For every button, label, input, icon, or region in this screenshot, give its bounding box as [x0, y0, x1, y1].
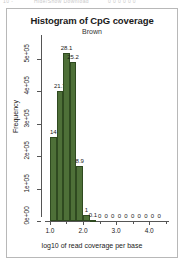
bar-value-label: 0 [151, 213, 154, 219]
toolbar-ghost-left: 10 - [3, 0, 13, 4]
bar-value-label: 0.1 [89, 212, 97, 218]
histogram-bar [70, 62, 77, 221]
bar-value-label: 0 [157, 213, 160, 219]
bar-value-label: 28.1 [61, 45, 73, 51]
cropped-toolbar-strip: 10 - Hide/Show Download 0 0 0 0 0 0 [0, 0, 187, 7]
histogram-panel: Histogram of CpG coverage Brown Frequenc… [6, 8, 178, 258]
histogram-bar [57, 91, 64, 221]
bar-value-label: 0 [111, 213, 114, 219]
bar-value-label: 25.2 [67, 54, 79, 60]
histogram-plot-area: Histogram of CpG coverage Brown Frequenc… [7, 9, 177, 257]
bar-value-label: 0 [98, 213, 101, 219]
toolbar-ghost-right: 0 0 0 0 0 0 [108, 0, 136, 4]
bar-value-label: 8.9 [76, 158, 84, 164]
bar-value-label: 0 [124, 213, 127, 219]
histogram-bar [76, 166, 83, 221]
bar-value-label: 0 [131, 213, 134, 219]
bar-value-label: 0 [138, 213, 141, 219]
bar-value-label: 0 [105, 213, 108, 219]
histogram-bar [90, 220, 97, 222]
histogram-bars: 1421.728.125.28.910.10000000000 [7, 9, 177, 257]
bar-value-label: 1 [85, 207, 88, 213]
histogram-bar [63, 53, 70, 221]
bar-value-label: 0 [144, 213, 147, 219]
bar-value-label: 0 [118, 213, 121, 219]
toolbar-ghost-middle: Hide/Show Download [34, 0, 89, 4]
histogram-bar [50, 137, 57, 222]
